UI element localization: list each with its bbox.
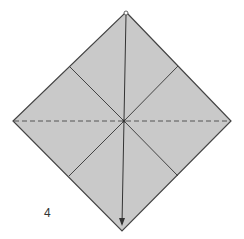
step-number-label: 4 [44, 206, 51, 220]
center-point [123, 120, 126, 123]
origami-diagram [0, 0, 244, 239]
fold-start-point-icon [124, 11, 128, 15]
